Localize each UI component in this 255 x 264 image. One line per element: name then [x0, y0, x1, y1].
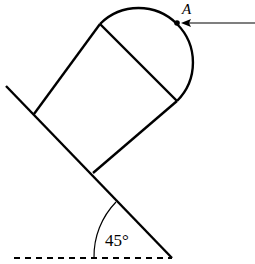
block-diameter-edge: [100, 24, 177, 101]
block-bottom-edge: [93, 101, 177, 173]
block-left-edge: [34, 24, 100, 114]
diagram-canvas: A 45°: [0, 0, 255, 264]
angle-label: 45°: [105, 231, 129, 250]
point-a-label: A: [181, 1, 192, 17]
inclined-plane: [6, 86, 172, 258]
point-a-dot: [174, 20, 180, 26]
